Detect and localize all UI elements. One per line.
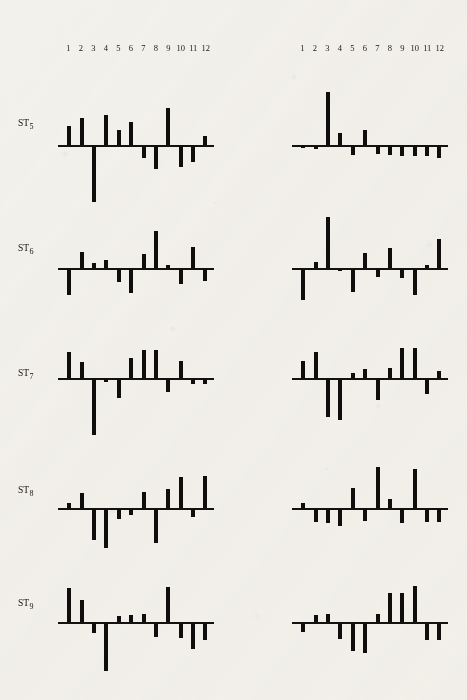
bar-3 [326, 217, 330, 268]
axis-tick-5: 5 [346, 43, 359, 53]
bar-12 [437, 239, 441, 268]
bar-8 [154, 623, 158, 637]
bar-2 [314, 615, 318, 622]
bar-3 [92, 509, 96, 540]
bar-group [292, 564, 448, 680]
axis-tick-numbers-right: 123456789101112 [296, 43, 446, 53]
bar-6 [363, 623, 367, 653]
bar-9 [166, 489, 170, 508]
axis-tick-1: 1 [62, 43, 75, 53]
bar-2 [80, 600, 84, 622]
bar-6 [129, 122, 133, 145]
bar-9 [166, 265, 170, 268]
bar-5 [117, 509, 121, 519]
bar-6 [129, 358, 133, 378]
bar-9 [400, 348, 404, 378]
row-label-st8: ST8 [18, 485, 33, 498]
bar-2 [314, 146, 318, 149]
bar-5 [117, 269, 121, 282]
row-label-text: ST [18, 368, 29, 378]
bar-12 [203, 623, 207, 640]
axis-tick-8: 8 [150, 43, 163, 53]
row-label-st6: ST6 [18, 243, 33, 256]
bar-2 [314, 509, 318, 522]
chart-panel-st6-right [292, 210, 448, 326]
bar-9 [400, 146, 404, 156]
bar-group [292, 450, 448, 566]
axis-tick-11: 11 [187, 43, 200, 53]
bar-7 [376, 269, 380, 277]
bar-6 [129, 509, 133, 515]
bar-3 [326, 379, 330, 417]
bar-3 [326, 614, 330, 622]
bar-8 [388, 368, 392, 378]
bar-11 [425, 623, 429, 640]
bar-10 [179, 477, 183, 508]
chart-panel-st5-right [292, 87, 448, 203]
axis-tick-5: 5 [112, 43, 125, 53]
axis-tick-7: 7 [137, 43, 150, 53]
bar-2 [80, 493, 84, 508]
row-label-st5: ST5 [18, 118, 33, 131]
bar-group [58, 320, 214, 436]
chart-panel-st5-left [58, 87, 214, 203]
axis-tick-2: 2 [309, 43, 322, 53]
bar-1 [301, 361, 305, 378]
bar-11 [191, 509, 195, 517]
axis-tick-8: 8 [384, 43, 397, 53]
bar-10 [179, 269, 183, 284]
bar-12 [203, 476, 207, 508]
bar-2 [80, 252, 84, 268]
axis-tick-2: 2 [75, 43, 88, 53]
bar-7 [142, 350, 146, 378]
chart-panel-st8-right [292, 450, 448, 566]
bar-1 [67, 352, 71, 378]
axis-tick-4: 4 [100, 43, 113, 53]
bar-12 [437, 146, 441, 158]
bar-1 [67, 269, 71, 295]
bar-2 [80, 362, 84, 378]
axis-tick-9: 9 [162, 43, 175, 53]
row-label-text: ST [18, 598, 29, 608]
bar-3 [326, 509, 330, 523]
bar-7 [142, 254, 146, 268]
bar-10 [179, 623, 183, 638]
bar-group [292, 320, 448, 436]
chart-panel-st6-left [58, 210, 214, 326]
bar-group [58, 450, 214, 566]
bar-11 [425, 509, 429, 522]
axis-tick-10: 10 [175, 43, 188, 53]
bar-1 [301, 146, 305, 148]
bar-10 [179, 146, 183, 167]
chart-panel-st7-left [58, 320, 214, 436]
bar-11 [425, 265, 429, 268]
axis-tick-9: 9 [396, 43, 409, 53]
bar-4 [338, 623, 342, 639]
bar-8 [388, 499, 392, 508]
bar-5 [117, 379, 121, 398]
bar-1 [67, 503, 71, 508]
row-label-text: ST [18, 485, 29, 495]
bar-5 [117, 130, 121, 145]
bar-9 [166, 587, 170, 622]
bar-8 [154, 350, 158, 378]
chart-panel-st8-left [58, 450, 214, 566]
bar-1 [301, 503, 305, 508]
bar-12 [437, 371, 441, 378]
bar-2 [80, 118, 84, 145]
bar-10 [413, 469, 417, 508]
bar-9 [400, 269, 404, 278]
figure-canvas: 123456789101112 123456789101112 ST5 ST6 … [0, 0, 467, 700]
bar-4 [338, 269, 342, 271]
bar-11 [425, 146, 429, 156]
bar-4 [338, 133, 342, 145]
axis-tick-1: 1 [296, 43, 309, 53]
row-label-st7: ST7 [18, 368, 33, 381]
bar-9 [400, 509, 404, 523]
row-label-subscript: 7 [29, 372, 33, 381]
bar-6 [129, 269, 133, 293]
bar-10 [179, 361, 183, 378]
bar-9 [400, 593, 404, 622]
bar-5 [351, 488, 355, 508]
axis-tick-4: 4 [334, 43, 347, 53]
